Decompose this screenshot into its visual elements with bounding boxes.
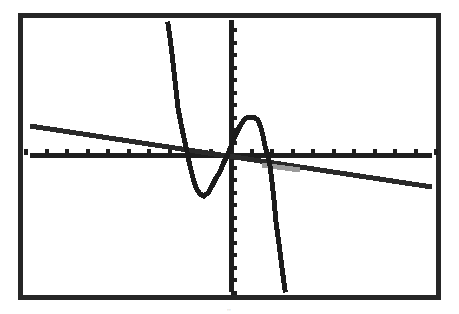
calculator-graph-screen: ·· [0, 0, 459, 314]
caption-mark: ·· [227, 306, 231, 313]
cubic-function-plot [168, 24, 285, 290]
